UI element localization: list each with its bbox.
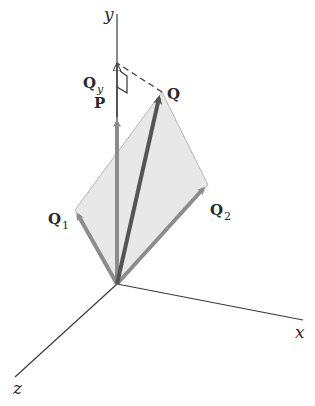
- p-label: P: [94, 94, 105, 112]
- q2-subscript: 2: [224, 210, 231, 223]
- z-axis-label: z: [12, 378, 23, 398]
- projection-dashed-line: [117, 63, 162, 92]
- vector-diagram: y x z P Q Q y Q 1 Q 2: [0, 0, 315, 406]
- x-axis: [117, 284, 303, 320]
- q1-label: Q: [48, 210, 61, 228]
- qy-label: Q: [83, 74, 96, 92]
- q-label: Q: [167, 85, 180, 103]
- right-angle-marker: [117, 71, 127, 93]
- qy-subscript: y: [96, 83, 104, 96]
- x-axis-label: x: [295, 322, 305, 342]
- q2-label: Q: [210, 201, 223, 219]
- q1-subscript: 1: [62, 219, 69, 232]
- y-axis-label: y: [103, 4, 114, 24]
- z-axis: [15, 284, 117, 377]
